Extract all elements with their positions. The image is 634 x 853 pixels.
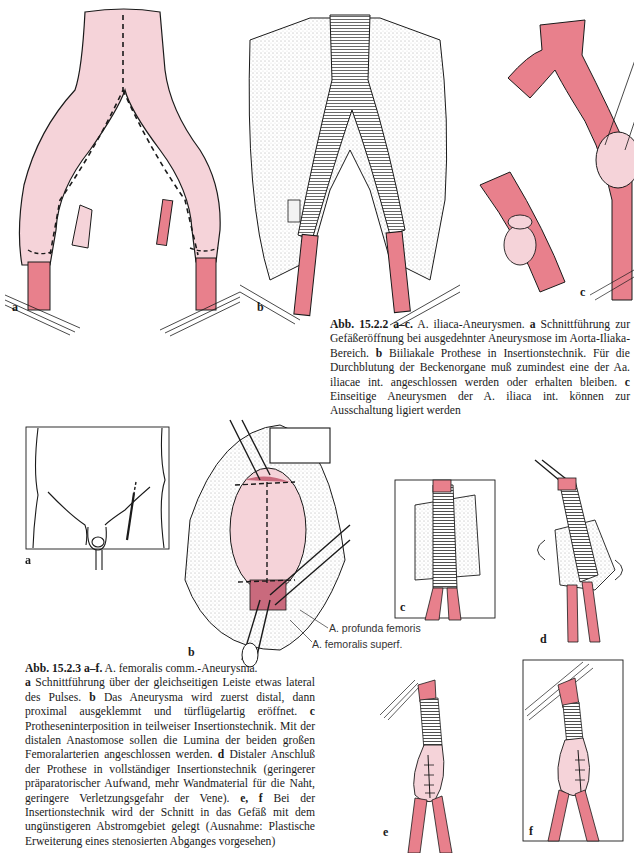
sublabel-c: c [400, 600, 405, 615]
caption-part-label-b: b [376, 347, 382, 360]
bi-iliac-prosthesis-drawing [240, 0, 460, 320]
sublabel-b: b [188, 645, 195, 660]
caption-id: Abb. 15.2.3 a–f. [25, 662, 102, 675]
caption-part-label-d: d [218, 748, 224, 761]
figure-15-2-3c-illustration: c [395, 480, 495, 620]
insertion-technique-e-drawing [380, 680, 470, 853]
sublabel-a: a [25, 553, 31, 568]
caption-part-text-c: Einseitige Aneurysmen der A. iliaca int.… [330, 390, 630, 417]
annotation-leader-lines [300, 610, 340, 650]
caption-part-label-ef: e, f [240, 792, 263, 805]
figure-15-2-2c-illustration: c [460, 0, 634, 310]
caption-figure-15-2-2: Abb. 15.2.2 a–c. A. iliaca-Aneurysmen. a… [330, 318, 630, 419]
figure-15-2-3a-illustration: a [0, 420, 175, 570]
caption-part-label-b: b [89, 691, 95, 704]
sublabel-d: d [540, 632, 547, 647]
caption-part-label-a: a [25, 676, 31, 689]
figure-15-2-3e-illustration: e [380, 680, 470, 853]
iliac-ligation-drawing [460, 0, 634, 310]
caption-part-label-c: c [310, 705, 315, 718]
insertion-technique-f-drawing [523, 660, 623, 843]
figure-15-2-2b-illustration: b [240, 0, 460, 320]
caption-title: A. femoralis comm.-Aneurysma. [105, 662, 258, 675]
sublabel-e: e [383, 825, 388, 840]
annotation-a-profunda-femoris: A. profunda femoris [329, 622, 421, 634]
partial-insertion-prosthesis-drawing [395, 480, 495, 620]
caption-part-label-c: c [625, 376, 630, 389]
caption-part-label-a: a [530, 318, 536, 331]
sublabel-b: b [257, 300, 264, 315]
aorto-iliac-aneurysm-drawing [0, 0, 240, 320]
sublabel-c: c [580, 285, 585, 300]
caption-title: A. iliaca-Aneurysmen. [417, 318, 524, 331]
caption-id: Abb. 15.2.2 a–c. [330, 318, 413, 331]
figure-15-2-3f-illustration: f [523, 660, 623, 843]
complete-insertion-prosthesis-drawing [520, 460, 634, 650]
sublabel-f: f [529, 824, 533, 839]
caption-figure-15-2-3: Abb. 15.2.3 a–f. A. femoralis comm.-Aneu… [25, 662, 315, 849]
groin-incision-drawing [0, 420, 175, 570]
sublabel-a: a [12, 300, 18, 315]
figure-15-2-2a-illustration: a [0, 0, 240, 320]
figure-15-2-3d-illustration: d [520, 460, 634, 650]
